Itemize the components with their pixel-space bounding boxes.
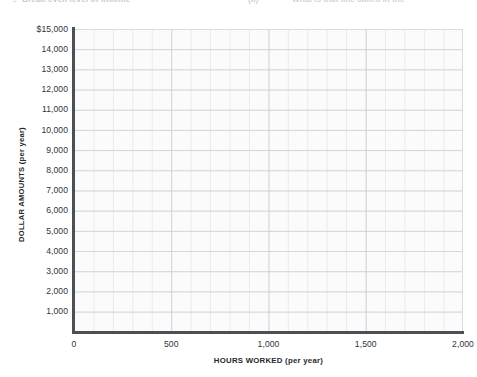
y-tick-label: 4,000 (4, 246, 68, 256)
x-axis-line (72, 331, 464, 334)
y-axis-tick-labels: 1,0002,0003,0004,0005,0006,0007,0008,000… (2, 0, 68, 377)
x-tick-label: 0 (44, 339, 104, 349)
plot-border-top (74, 29, 463, 30)
plot-border-right (462, 29, 463, 333)
y-axis-line (72, 27, 75, 333)
x-tick-label: 500 (141, 339, 201, 349)
y-tick-label: 11,000 (4, 104, 68, 114)
y-axis-title: DOLLAR AMOUNTS (per year) (17, 115, 26, 255)
y-tick-label: 5,000 (4, 226, 68, 236)
x-tick-label: 2,000 (433, 339, 477, 349)
y-tick-label: 9,000 (4, 145, 68, 155)
y-tick-label: $15,000 (4, 24, 68, 34)
y-tick-label: 2,000 (4, 286, 68, 296)
chart-figure: 1,0002,0003,0004,0005,0006,0007,0008,000… (0, 0, 477, 377)
y-tick-label: 3,000 (4, 266, 68, 276)
y-tick-label: 1,000 (4, 306, 68, 316)
y-tick-label: 7,000 (4, 185, 68, 195)
y-tick-label: 14,000 (4, 44, 68, 54)
y-tick-label: 13,000 (4, 64, 68, 74)
x-tick-label: 1,000 (239, 339, 299, 349)
y-tick-label: 12,000 (4, 84, 68, 94)
x-tick-label: 1,500 (336, 339, 396, 349)
plot-area[interactable] (74, 29, 463, 332)
x-axis-title: HOURS WORKED (per year) (74, 356, 463, 365)
y-tick-label: 10,000 (4, 125, 68, 135)
y-tick-label: 6,000 (4, 205, 68, 215)
y-tick-label: 8,000 (4, 165, 68, 175)
